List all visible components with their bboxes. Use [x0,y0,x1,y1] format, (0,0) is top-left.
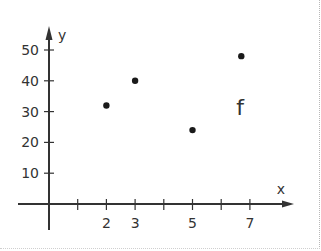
data-point [189,127,195,133]
x-tick-label: 2 [102,215,111,231]
y-axis-arrow-icon [46,26,53,40]
frame-border-bottom [0,248,320,250]
y-tick-label: 40 [21,73,39,89]
x-axis-arrow-icon [282,201,294,208]
x-tick-label: 7 [245,215,254,231]
y-axis-label: y [58,27,66,43]
data-point [132,78,138,84]
y-tick-label: 20 [21,134,39,150]
y-tick-label: 30 [21,104,39,120]
x-axis-label: x [277,181,285,197]
scatter-chart: 23571020304050yxf [0,0,321,251]
y-tick-label: 10 [21,165,39,181]
y-tick-label: 50 [21,42,39,58]
data-point [103,102,109,108]
data-point [238,53,244,59]
plot-area: 23571020304050yxf [0,0,321,251]
x-tick-label: 5 [188,215,197,231]
x-tick-label: 3 [131,215,140,231]
function-label: f [236,95,245,120]
